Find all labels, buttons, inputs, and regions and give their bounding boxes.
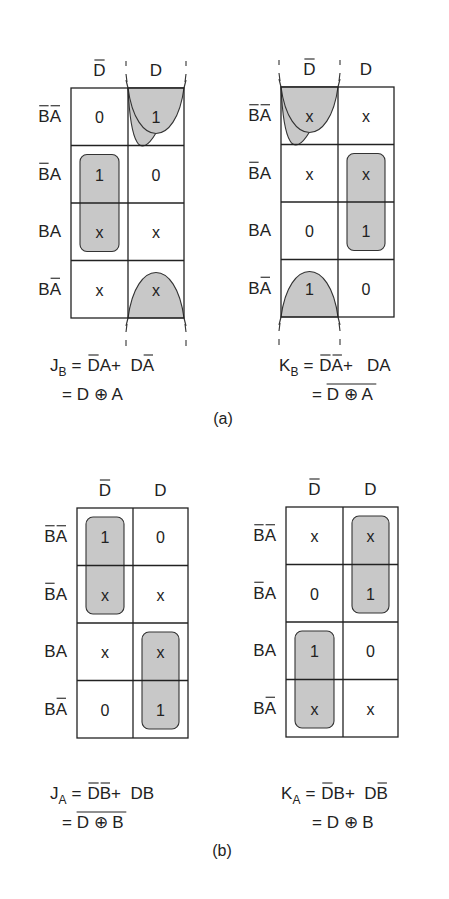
kmap-cell-value: x — [367, 701, 375, 718]
kmap-cell-value: x — [306, 108, 314, 125]
kmap-cell-value: 1 — [366, 586, 375, 603]
equation-term: D — [364, 784, 376, 803]
caption-a: (a) — [213, 410, 233, 427]
equation-term: A — [143, 356, 155, 375]
kmap-cell-value: 0 — [156, 529, 165, 546]
kmap-cell-value: x — [96, 224, 104, 241]
col-header-d: D — [364, 480, 376, 499]
equation-jb: JB=DA + DA= D ⊕ A — [50, 355, 155, 404]
row-header-2: AB — [253, 641, 276, 660]
row-header-var: A — [265, 699, 277, 718]
row-header-3: AB — [248, 277, 271, 298]
equation-term: D — [319, 356, 331, 375]
row-header-var: A — [265, 641, 277, 660]
equation-simplified: = D ⊕ A — [62, 385, 123, 404]
equation-term: B — [377, 784, 388, 803]
kmap-cell-value: x — [101, 587, 109, 604]
kmap-cell-value: x — [152, 224, 160, 241]
row-header-var: A — [56, 642, 68, 661]
kmap-cell-value: 0 — [152, 167, 161, 184]
row-header-0: AB — [44, 526, 67, 547]
kmap-kb: DDABABABABxxxx0110KB=DA + DA= D ⊕ A — [248, 59, 394, 404]
kmap-cell-value: x — [367, 528, 375, 545]
kmap-cell-value: 0 — [95, 109, 104, 126]
row-header-var: B — [44, 585, 55, 604]
row-header-var: A — [265, 584, 277, 603]
col-header-d: D — [150, 61, 162, 80]
kmap-cell-value: x — [362, 108, 370, 125]
kmap-cell-value: 1 — [310, 643, 319, 660]
row-header-var: A — [50, 222, 62, 241]
equation-simplified: = D ⊕ A — [312, 385, 373, 404]
kmap-cell-value: x — [157, 644, 165, 661]
row-header-var: A — [56, 527, 68, 546]
row-header-var: A — [50, 165, 62, 184]
kmap-cell-value: 0 — [101, 702, 110, 719]
row-header-var: B — [248, 279, 259, 298]
equation-term: D — [87, 784, 99, 803]
row-header-1: AB — [248, 162, 271, 183]
equation-term: A — [332, 356, 344, 375]
row-header-var: B — [248, 106, 259, 125]
row-header-var: B — [253, 641, 264, 660]
equation-term: B — [334, 784, 345, 803]
equation-lhs: K — [279, 356, 291, 375]
col-header-d: D — [154, 481, 166, 500]
row-header-var: B — [44, 642, 55, 661]
row-header-var: A — [56, 700, 68, 719]
equation-simplified: = D ⊕ B — [62, 813, 124, 832]
kmap-cell-value: 1 — [362, 223, 371, 240]
row-header-var: A — [260, 221, 272, 240]
col-header-not-d: D — [99, 481, 111, 500]
row-header-2: AB — [44, 642, 67, 661]
row-header-var: B — [44, 700, 55, 719]
karnaugh-map-figure: DDABABABAB0110xxxxJB=DA + DA= D ⊕ A DDAB… — [0, 0, 449, 899]
kmap-cell-value: x — [101, 644, 109, 661]
kmap-cell-value: 0 — [310, 586, 319, 603]
kmap-cell-value: x — [157, 587, 165, 604]
equation-lhs: J — [50, 356, 59, 375]
caption-b: (b) — [212, 842, 232, 859]
equation-lhs-subscript: B — [290, 365, 298, 379]
kmap-ja: DDABABABAB10xxxx01JA=DB + DB= D ⊕ B — [44, 480, 188, 832]
col-header-not-d: D — [308, 480, 320, 499]
row-header-var: A — [56, 585, 68, 604]
row-header-var: B — [38, 222, 49, 241]
equation-term: A — [100, 356, 112, 375]
kmap-ka: DDABABABABxx0110xxKA=DB + DB= D ⊕ B — [253, 479, 398, 832]
kmap-cell-value: 0 — [362, 281, 371, 298]
equals-sign: = — [72, 784, 82, 803]
kmap-cell-value: 1 — [156, 702, 165, 719]
equation-term: D — [130, 356, 142, 375]
kmap-cell-value: 1 — [152, 109, 161, 126]
kmap-cell-value: x — [306, 166, 314, 183]
col-header-not-d: D — [303, 60, 315, 79]
row-header-1: AB — [44, 583, 67, 604]
equation-kb: KB=DA + DA= D ⊕ A — [279, 355, 391, 404]
col-header-d: D — [360, 60, 372, 79]
kmap-cell-value: x — [362, 166, 370, 183]
equals-sign: = — [303, 356, 313, 375]
equation-term: B — [100, 784, 111, 803]
row-header-var: B — [253, 526, 264, 545]
kmap-cell-value: 1 — [95, 167, 104, 184]
kmap-cell-value: x — [311, 528, 319, 545]
row-header-var: A — [265, 526, 277, 545]
equation-term: + — [345, 784, 355, 803]
row-header-var: A — [50, 107, 62, 126]
equation-term: D — [321, 784, 333, 803]
row-header-var: B — [248, 164, 259, 183]
equation-term: + — [111, 784, 121, 803]
kmap-cell-value: x — [152, 282, 160, 299]
equation-lhs-subscript: B — [59, 365, 67, 379]
row-header-3: AB — [44, 698, 67, 719]
equation-term: A — [379, 356, 391, 375]
equation-lhs: K — [281, 784, 293, 803]
kmap-cell-value: 0 — [366, 643, 375, 660]
kmap-jb: DDABABABAB0110xxxxJB=DA + DA= D ⊕ A — [38, 60, 186, 404]
equation-term: D — [367, 356, 379, 375]
row-header-1: AB — [38, 163, 61, 184]
kmap-cell-value: x — [96, 282, 104, 299]
kmap-cell-value: 1 — [101, 529, 110, 546]
equation-term: + — [111, 356, 121, 375]
